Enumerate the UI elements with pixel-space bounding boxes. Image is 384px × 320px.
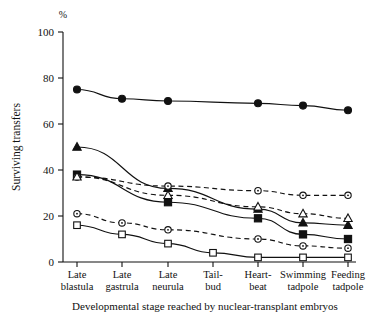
y-tick-label: 0 — [49, 256, 55, 268]
marker-open-square — [300, 254, 307, 261]
survival-line-chart: % Surviving transfers 020406080100 Lateb… — [0, 0, 384, 320]
x-category-label: Heart- — [245, 269, 272, 280]
y-tick-label: 40 — [43, 164, 55, 176]
y-axis-unit-label: % — [59, 9, 67, 20]
marker-open-circle-dot — [347, 194, 349, 196]
marker-open-circle-dot — [257, 190, 259, 192]
figure-container: % Surviving transfers 020406080100 Lateb… — [0, 0, 384, 320]
marker-open-circle-dot — [76, 213, 78, 215]
x-category-label: tadpole — [333, 281, 364, 292]
x-axis-title: Developmental stage reached by nuclear-t… — [72, 300, 338, 312]
x-category-label: tadpole — [288, 281, 319, 292]
x-category-label: Tail- — [203, 269, 223, 280]
y-tick-label: 80 — [43, 72, 55, 84]
marker-open-circle-dot — [167, 185, 169, 187]
x-category-label: neurula — [152, 281, 184, 292]
x-category-label: Swimming — [280, 269, 327, 280]
marker-open-square — [74, 222, 81, 229]
marker-open-circle-dot — [257, 238, 259, 240]
x-category-label: gastrula — [105, 281, 139, 292]
y-tick-label: 20 — [43, 210, 55, 222]
x-category-label: Feeding — [331, 269, 366, 280]
marker-filled-circle — [165, 98, 172, 105]
x-category-label: bud — [205, 281, 222, 292]
marker-filled-square — [299, 231, 306, 238]
marker-open-square — [210, 250, 217, 257]
y-tick-label: 60 — [43, 118, 55, 130]
marker-open-circle-dot — [347, 247, 349, 249]
x-category-label: Late — [159, 269, 178, 280]
marker-filled-circle — [345, 107, 352, 114]
marker-open-square — [345, 254, 352, 261]
marker-filled-circle — [300, 102, 307, 109]
marker-open-circle-dot — [302, 194, 304, 196]
marker-filled-circle — [74, 86, 81, 93]
y-tick-label: 100 — [38, 26, 55, 38]
marker-filled-square — [164, 199, 171, 206]
marker-filled-circle — [255, 100, 262, 107]
marker-open-square — [165, 240, 172, 247]
chart-background — [0, 0, 384, 320]
marker-filled-square — [344, 235, 351, 242]
x-category-label: beat — [249, 281, 267, 292]
marker-open-circle-dot — [167, 229, 169, 231]
marker-open-circle-dot — [121, 222, 123, 224]
x-category-label: blastula — [61, 281, 94, 292]
x-category-label: Late — [68, 269, 87, 280]
marker-open-circle-dot — [302, 245, 304, 247]
marker-filled-square — [254, 215, 261, 222]
x-category-label: Late — [113, 269, 132, 280]
marker-open-square — [255, 254, 262, 261]
marker-open-square — [119, 231, 126, 238]
y-axis-title: Surviving transfers — [10, 103, 23, 191]
marker-filled-circle — [119, 95, 126, 102]
